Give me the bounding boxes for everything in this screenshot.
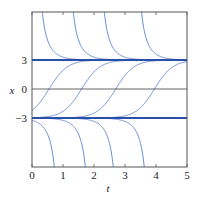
x-axis-ticks: 012345 bbox=[29, 12, 190, 181]
x-tick-label: 2 bbox=[91, 169, 97, 181]
equilibrium-lines bbox=[32, 60, 187, 118]
x-tick-label: 0 bbox=[29, 169, 35, 181]
y-axis-ticks: −303 bbox=[15, 54, 27, 124]
solution-curve bbox=[71, 0, 187, 60]
x-axis-label: t bbox=[106, 182, 110, 194]
x-tick-label: 3 bbox=[122, 169, 128, 181]
solution-curves-chart: 012345 −303 t x bbox=[0, 0, 200, 198]
y-axis-label: x bbox=[9, 84, 15, 96]
solution-curve bbox=[32, 118, 147, 198]
x-tick-label: 4 bbox=[153, 169, 159, 181]
y-tick-label: −3 bbox=[15, 112, 27, 124]
solution-curve bbox=[32, 118, 116, 198]
solution-curve bbox=[32, 118, 88, 198]
x-tick-label: 5 bbox=[184, 169, 190, 181]
y-tick-label: 3 bbox=[22, 54, 28, 66]
solution-curve bbox=[32, 120, 57, 198]
solution-curves bbox=[32, 0, 187, 198]
solution-curve bbox=[32, 62, 187, 118]
solution-curve bbox=[139, 0, 187, 60]
y-tick-label: 0 bbox=[22, 83, 28, 95]
solution-curve bbox=[40, 0, 187, 60]
solution-curve bbox=[32, 60, 187, 110]
x-tick-label: 1 bbox=[60, 169, 66, 181]
